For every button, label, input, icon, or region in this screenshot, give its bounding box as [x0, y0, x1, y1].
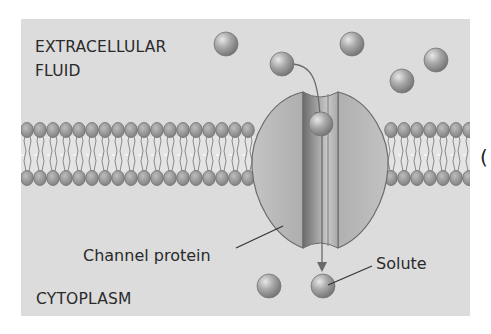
lipid-head: [47, 171, 60, 186]
solute-molecule: [390, 69, 414, 93]
lipid-head: [99, 171, 112, 186]
lipid-head: [151, 171, 164, 186]
lipid-head: [463, 171, 476, 186]
lipid-head: [203, 123, 216, 138]
lipid-head: [216, 171, 229, 186]
solute-molecule: [214, 32, 238, 56]
lipid-head: [151, 123, 164, 138]
lipid-head: [164, 171, 177, 186]
extracellular-label-line1: EXTRACELLULAR: [35, 40, 167, 56]
lipid-heads-bottom: [21, 171, 476, 186]
lipid-head: [125, 171, 138, 186]
solute-label: Solute: [376, 256, 427, 272]
extracellular-fluid-label: EXTRACELLULAR FLUID: [35, 40, 167, 79]
lipid-head: [73, 123, 86, 138]
lipid-heads-top: [21, 123, 476, 138]
lipid-head: [450, 123, 463, 138]
lipid-head: [86, 171, 99, 186]
solute-molecule: [424, 48, 448, 72]
lipid-head: [34, 123, 47, 138]
lipid-head: [411, 171, 424, 186]
lipid-head: [112, 123, 125, 138]
extracellular-label-line2: FLUID: [35, 64, 167, 80]
lipid-head: [398, 171, 411, 186]
lipid-head: [138, 171, 151, 186]
lipid-head: [437, 171, 450, 186]
lipid-head: [21, 123, 34, 138]
lipid-head: [450, 171, 463, 186]
solute-molecule: [257, 274, 281, 298]
lipid-head: [60, 171, 73, 186]
lipid-head: [112, 171, 125, 186]
channel-protein-diagram: EXTRACELLULAR FLUID Channel protein Solu…: [0, 0, 491, 334]
lipid-head: [385, 123, 398, 138]
lipid-head: [177, 123, 190, 138]
lipid-head: [34, 171, 47, 186]
lipid-tails: [21, 136, 470, 172]
lipid-head: [190, 171, 203, 186]
lipid-head: [164, 123, 177, 138]
lipid-head: [229, 171, 242, 186]
lipid-head: [99, 123, 112, 138]
partial-parenthesis-text: (: [480, 145, 488, 169]
solute-molecule: [270, 52, 294, 76]
lipid-head: [437, 123, 450, 138]
lipid-head: [463, 123, 476, 138]
lipid-head: [411, 123, 424, 138]
lipid-head: [60, 123, 73, 138]
lipid-head: [73, 171, 86, 186]
lipid-head: [398, 123, 411, 138]
lipid-head: [190, 123, 203, 138]
lipid-head: [242, 123, 255, 138]
lipid-head: [424, 171, 437, 186]
solute-molecule: [340, 32, 364, 56]
channel-protein-label: Channel protein: [83, 248, 211, 264]
lipid-head: [203, 171, 216, 186]
lipid-head: [229, 123, 242, 138]
lipid-head: [47, 123, 60, 138]
lipid-head: [138, 123, 151, 138]
lipid-head: [86, 123, 99, 138]
solute-molecule: [311, 274, 335, 298]
lipid-head: [424, 123, 437, 138]
lipid-head: [125, 123, 138, 138]
lipid-head: [216, 123, 229, 138]
solute-molecule: [309, 112, 333, 136]
cytoplasm-label: CYTOPLASM: [36, 292, 132, 308]
lipid-head: [177, 171, 190, 186]
lipid-head: [21, 171, 34, 186]
